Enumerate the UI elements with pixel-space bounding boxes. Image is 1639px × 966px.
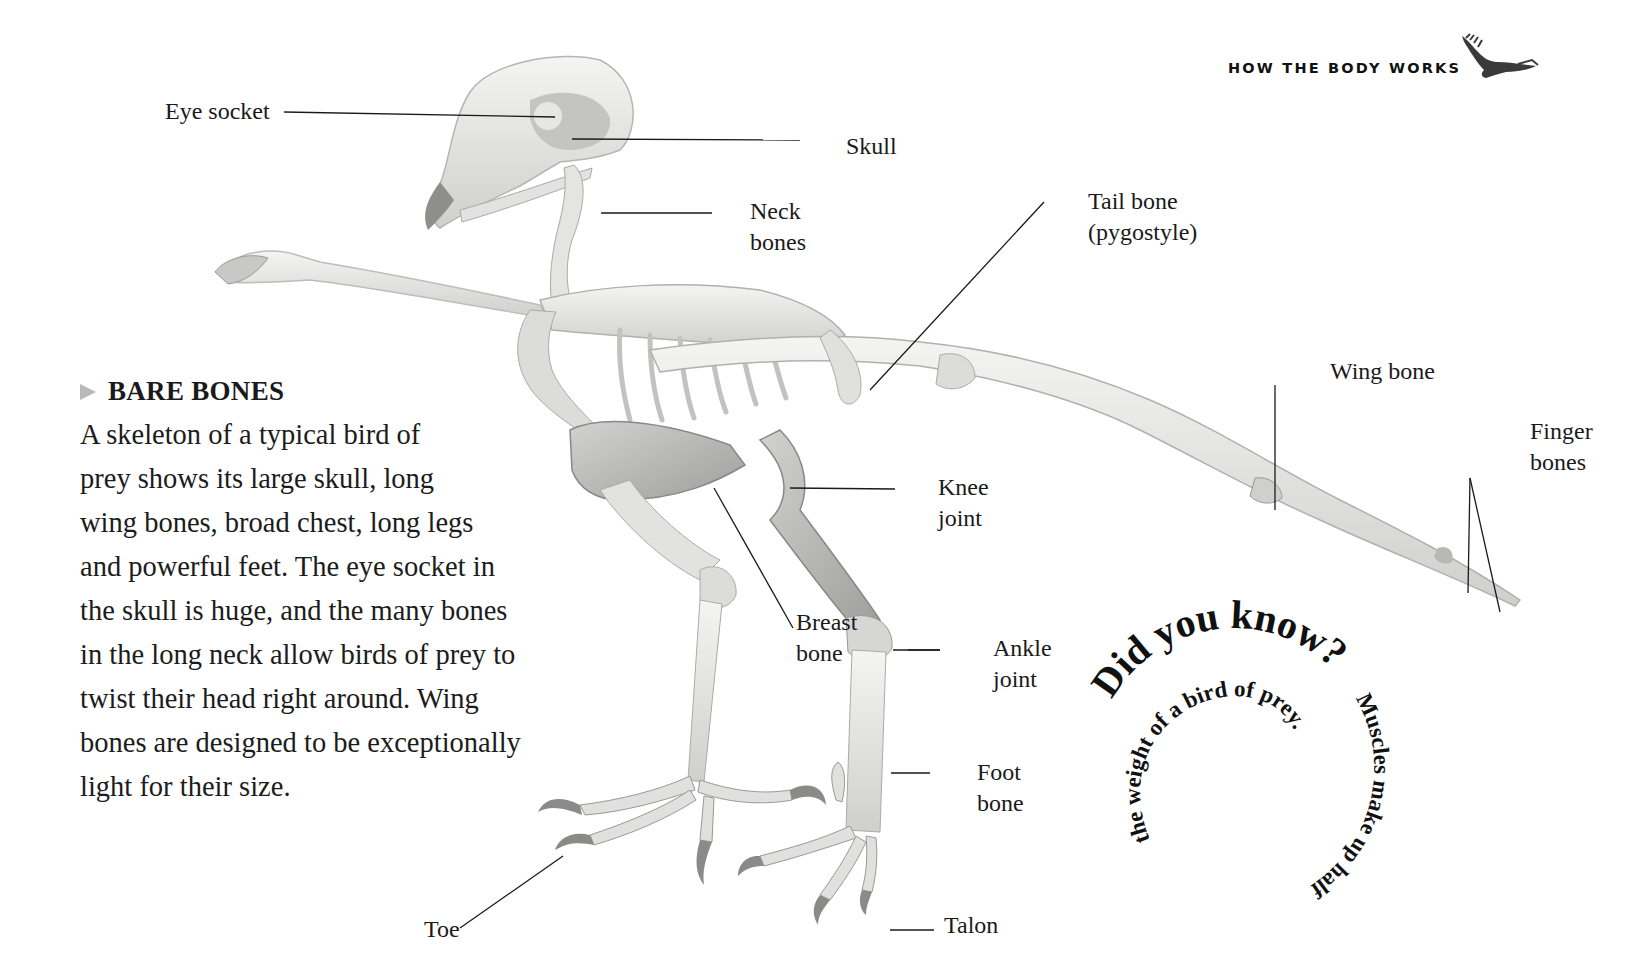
label-toe: Toe — [424, 914, 460, 945]
triangle-bullet-icon — [80, 384, 96, 400]
label-finger-bones: Finger bones — [1530, 416, 1593, 478]
label-wing-bone: Wing bone — [1330, 356, 1435, 387]
did-you-know-spiral: Did you know? Muscles make up half the w… — [1090, 600, 1410, 920]
did-you-know-fact: Muscles make up half — [1306, 689, 1394, 903]
article-bare-bones: BARE BONES A skeleton of a typical bird … — [80, 376, 640, 809]
label-breast-bone: Breast bone — [796, 607, 857, 669]
article-body: A skeleton of a typical bird of prey sho… — [80, 413, 640, 809]
label-foot-bone: Foot bone — [977, 757, 1024, 819]
article-title: BARE BONES — [80, 376, 640, 407]
did-you-know-fact-inner: the weight of a bird of prey. — [1120, 676, 1312, 847]
label-talon: Talon — [944, 910, 998, 941]
label-tail-bone: Tail bone (pygostyle) — [1088, 186, 1197, 248]
label-neck-bones: Neck bones — [750, 196, 806, 258]
label-knee-joint: Knee joint — [938, 472, 989, 534]
label-skull: Skull — [846, 131, 897, 162]
label-ankle-joint: Ankle joint — [993, 633, 1052, 695]
label-eye-socket: Eye socket — [165, 96, 270, 127]
